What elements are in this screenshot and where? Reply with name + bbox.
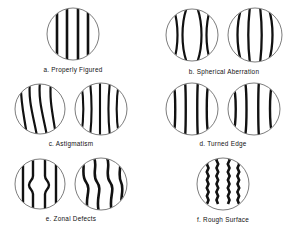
caption-spherical-aberration: b. Spherical Aberration (189, 68, 259, 75)
disc-row (13, 156, 129, 212)
panel-rough-surface: f. Rough Surface (158, 156, 288, 223)
disc-astigmatism-skewed (13, 82, 67, 136)
panel-zonal-defects: e. Zonal Defects (8, 156, 134, 222)
ronchi-pattern-figure: a. Properly Figured (0, 0, 291, 235)
disc-rough-surface (195, 156, 251, 212)
disc-zonal-defect-mild (13, 157, 67, 211)
disc-row (164, 6, 284, 64)
caption-rough-surface: f. Rough Surface (197, 216, 249, 223)
disc-astigmatism-flared (73, 81, 129, 137)
disc-row (195, 156, 251, 212)
caption-zonal-defects: e. Zonal Defects (46, 215, 97, 222)
panel-spherical-aberration: b. Spherical Aberration (160, 6, 288, 75)
disc-zonal-defect-severe (73, 156, 129, 212)
disc-turned-edge-strong (226, 81, 282, 137)
caption-turned-edge: d. Turned Edge (199, 140, 246, 147)
disc-spherical-aberration-outer (226, 6, 284, 64)
disc-turned-edge-mild (164, 81, 220, 137)
caption-astigmatism: c. Astigmatism (49, 140, 94, 147)
panel-turned-edge: d. Turned Edge (158, 81, 288, 147)
disc-row (164, 81, 282, 137)
panel-properly-figured: a. Properly Figured (14, 6, 132, 73)
caption-properly-figured: a. Properly Figured (43, 66, 102, 73)
panel-astigmatism: c. Astigmatism (8, 81, 134, 147)
disc-properly-figured (45, 6, 101, 62)
disc-row (45, 6, 101, 62)
disc-spherical-aberration-inner (164, 7, 220, 63)
disc-row (13, 81, 129, 137)
